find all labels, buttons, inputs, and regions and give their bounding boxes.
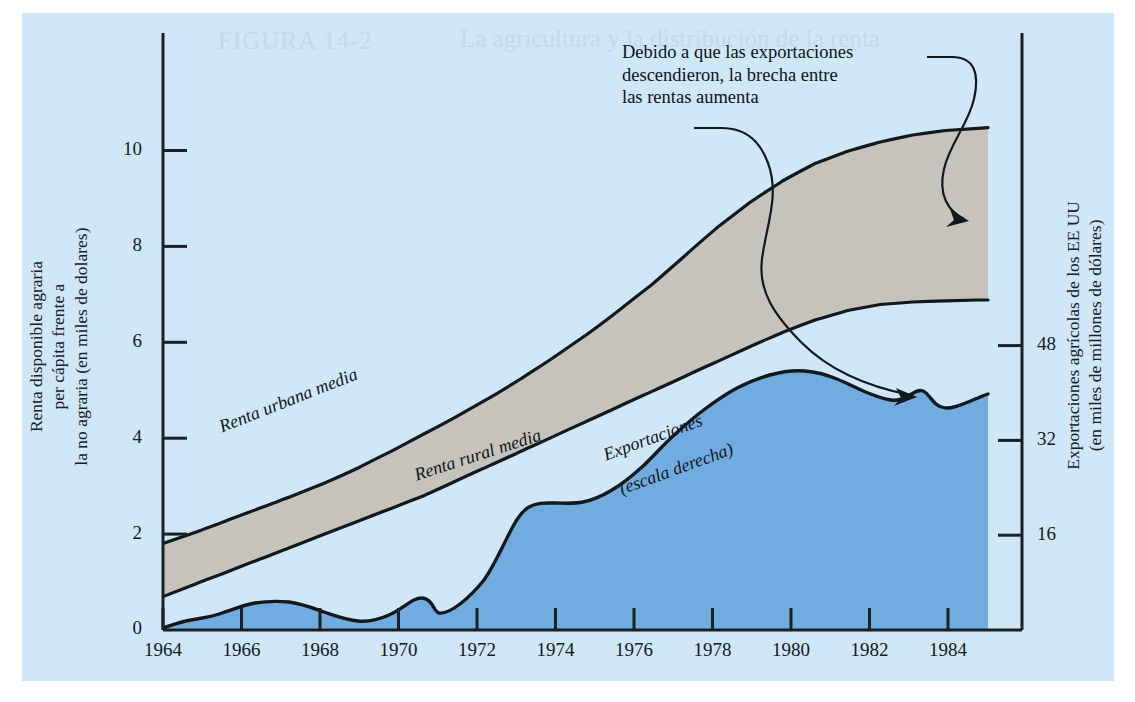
chart-panel: FIGURA 14-2 La agricultura y la distribu…	[22, 13, 1114, 681]
x-tick-label-1982: 1982	[835, 639, 905, 661]
chart-page: FIGURA 14-2 La agricultura y la distribu…	[0, 0, 1135, 702]
x-tick-label-1968: 1968	[285, 639, 355, 661]
y-tick-label-2: 2	[97, 522, 142, 544]
x-tick-label-1966: 1966	[207, 639, 277, 661]
x-tick-label-1976: 1976	[599, 639, 669, 661]
gap-callout-text: Debido a que las exportaciones descendie…	[622, 41, 952, 109]
y-axis-left-title-line-2: per cápita frente a	[48, 167, 70, 527]
y-axis-right-title-line-2: (en miles de millones de dólares)	[1084, 155, 1106, 515]
y-axis-left-title: Renta disponible agraria per cápita fren…	[25, 167, 92, 527]
x-tick-label-1964: 1964	[128, 639, 198, 661]
plot-area	[22, 13, 1114, 681]
x-tick-label-1974: 1974	[521, 639, 591, 661]
y-axis-right-ticks	[998, 346, 1022, 536]
x-tick-label-1970: 1970	[364, 639, 434, 661]
x-tick-label-1980: 1980	[756, 639, 826, 661]
gap-callout-line-3: las rentas aumenta	[622, 86, 952, 109]
y-tick-label-0: 0	[97, 617, 142, 639]
gap-callout-line-2: descendieron, la brecha entre	[622, 64, 952, 87]
y-tick-label-4: 4	[97, 426, 142, 448]
y-tick-label-10: 10	[97, 138, 142, 160]
x-tick-label-1984: 1984	[913, 639, 983, 661]
chart-svg	[22, 13, 1114, 681]
y2-tick-label-48: 48	[1037, 333, 1082, 355]
y-axis-left-title-line-3: la no agraria (en miles de dolares)	[70, 167, 92, 527]
y2-tick-label-16: 16	[1037, 523, 1082, 545]
y-tick-label-8: 8	[97, 234, 142, 256]
x-tick-label-1978: 1978	[678, 639, 748, 661]
gap-callout-line-1: Debido a que las exportaciones	[622, 41, 952, 64]
y-axis-left-title-line-1: Renta disponible agraria	[25, 167, 47, 527]
y-tick-label-6: 6	[97, 330, 142, 352]
x-tick-label-1972: 1972	[442, 639, 512, 661]
y2-tick-label-32: 32	[1037, 428, 1082, 450]
